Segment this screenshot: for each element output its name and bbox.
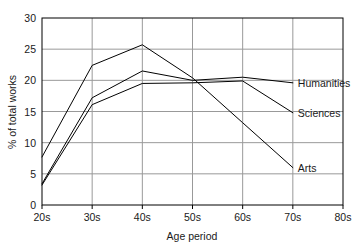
- x-axis-tick-labels: 20s30s40s50s60s70s80s: [34, 211, 352, 223]
- y-axis-title: % of total works: [6, 75, 18, 149]
- series-label-sciences: Sciences: [298, 107, 341, 119]
- line-chart: 051015202530 20s30s40s50s60s70s80s ArtsH…: [0, 0, 356, 249]
- y-tick-label: 10: [24, 137, 36, 149]
- x-tick-label: 30s: [84, 211, 101, 223]
- x-tick-label: 20s: [34, 211, 51, 223]
- x-axis-title: Age period: [167, 230, 218, 242]
- y-tick-label: 15: [24, 106, 36, 118]
- y-tick-label: 30: [24, 12, 36, 24]
- series-label-arts: Arts: [298, 162, 317, 174]
- x-tick-label: 40s: [134, 211, 151, 223]
- x-tick-label: 80s: [335, 211, 352, 223]
- x-tick-label: 50s: [184, 211, 201, 223]
- y-tick-label: 20: [24, 74, 36, 86]
- x-axis-tick-marks: [42, 205, 343, 209]
- x-tick-label: 70s: [284, 211, 301, 223]
- x-tick-label: 60s: [234, 211, 251, 223]
- y-axis-tick-labels: 051015202530: [24, 12, 36, 211]
- chart-canvas: 051015202530 20s30s40s50s60s70s80s ArtsH…: [0, 0, 356, 249]
- series-label-humanities: Humanities: [298, 77, 351, 89]
- y-tick-label: 5: [30, 168, 36, 180]
- y-tick-label: 0: [30, 199, 36, 211]
- y-tick-label: 25: [24, 43, 36, 55]
